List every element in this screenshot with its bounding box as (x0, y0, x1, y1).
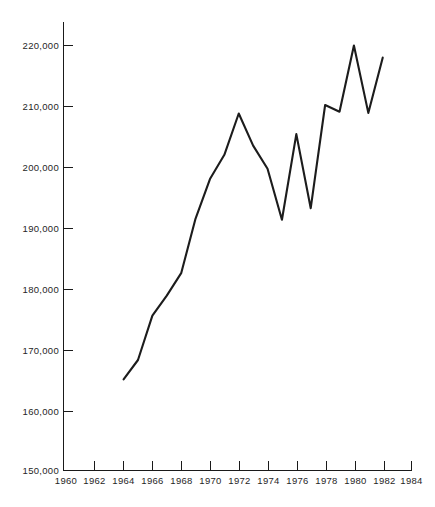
y-axis-label-150000: 150,000 (23, 465, 59, 476)
x-axis-label-1984: 1984 (400, 475, 422, 486)
line-chart-canvas: 220,000 210,000 200,000 190,000 180,000 … (0, 0, 435, 507)
x-axis-label-1960: 1960 (55, 475, 77, 486)
chart-figure: 220,000 210,000 200,000 190,000 180,000 … (0, 0, 435, 507)
x-axis-label-1970: 1970 (199, 475, 221, 486)
x-axis-label-1964: 1964 (112, 475, 134, 486)
y-axis-label-180000: 180,000 (23, 284, 59, 295)
x-axis-label-1978: 1978 (315, 475, 337, 486)
x-axis-label-1980: 1980 (344, 475, 366, 486)
y-axis-label-210000: 210,000 (23, 101, 59, 112)
x-axis-label-1962: 1962 (83, 475, 105, 486)
y-axis-label-170000: 170,000 (23, 345, 59, 356)
data-series-line (124, 46, 383, 380)
y-axis-label-220000: 220,000 (23, 40, 59, 51)
y-axis-tick-labels: 220,000 210,000 200,000 190,000 180,000 … (23, 40, 59, 476)
y-axis-label-200000: 200,000 (23, 162, 59, 173)
axes-group (64, 22, 413, 471)
x-axis-label-1972: 1972 (228, 475, 250, 486)
x-axis-label-1968: 1968 (170, 475, 192, 486)
x-axis-tick-labels: 1960 1962 1964 1966 1968 1970 1972 1974 … (55, 475, 423, 486)
y-axis-label-160000: 160,000 (23, 406, 59, 417)
x-axis-label-1974: 1974 (257, 475, 279, 486)
y-axis-ticks (64, 46, 74, 412)
x-axis-label-1966: 1966 (141, 475, 163, 486)
y-axis-label-190000: 190,000 (23, 223, 59, 234)
x-axis-label-1976: 1976 (286, 475, 308, 486)
x-axis-label-1982: 1982 (373, 475, 395, 486)
x-axis-ticks (95, 461, 412, 471)
